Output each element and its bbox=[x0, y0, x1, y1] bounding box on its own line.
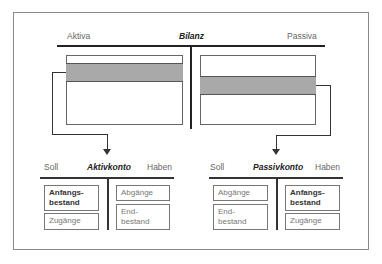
cell-line: bestand bbox=[49, 198, 94, 208]
aktiva-connector-horizontal bbox=[52, 134, 108, 135]
aktivkonto-endbestand: End- bestand bbox=[116, 204, 170, 230]
passivkonto-abgaenge: Abgänge bbox=[213, 185, 268, 201]
passivkonto-haben-label: Haben bbox=[315, 162, 340, 172]
bilanz-title: Bilanz bbox=[179, 31, 204, 41]
passiva-highlight-band bbox=[200, 76, 316, 95]
aktiva-highlight-band bbox=[66, 63, 183, 82]
passiva-connector-vertical bbox=[330, 85, 331, 136]
passiva-connector-drop bbox=[276, 135, 277, 149]
cell-line: Zugänge bbox=[49, 216, 94, 226]
cell-line: End- bbox=[218, 207, 263, 217]
cell-line: bestand bbox=[290, 198, 335, 208]
aktiva-connector-stub bbox=[52, 72, 66, 73]
aktiva-connector-drop bbox=[107, 134, 108, 149]
passivkonto-zugaenge: Zugänge bbox=[285, 213, 340, 230]
aktivkonto-soll-label: Soll bbox=[44, 162, 58, 172]
passivkonto-title: Passivkonto bbox=[253, 162, 303, 172]
aktivkonto-vertical-line bbox=[107, 177, 109, 230]
cell-line: End- bbox=[121, 207, 165, 217]
passiva-connector-stub bbox=[316, 85, 331, 86]
aktivkonto-zugaenge: Zugänge bbox=[44, 213, 99, 230]
passiva-label: Passiva bbox=[287, 31, 317, 41]
aktiva-connector-vertical bbox=[52, 72, 53, 135]
aktivkonto-abgaenge: Abgänge bbox=[116, 185, 170, 201]
arrow-down-icon bbox=[272, 149, 280, 155]
aktivkonto-title: Aktivkonto bbox=[87, 162, 131, 172]
cell-line: Abgänge bbox=[218, 188, 263, 198]
passivkonto-soll-label: Soll bbox=[210, 162, 224, 172]
passivkonto-anfangsbestand: Anfangs- bestand bbox=[285, 185, 340, 211]
passiva-connector-horizontal bbox=[276, 135, 331, 136]
cell-line: Abgänge bbox=[121, 188, 165, 198]
aktivkonto-haben-label: Haben bbox=[147, 162, 172, 172]
cell-line: Zugänge bbox=[290, 216, 335, 226]
cell-line: bestand bbox=[121, 217, 165, 227]
cell-line: bestand bbox=[218, 217, 263, 227]
cell-line: Anfangs- bbox=[49, 188, 94, 198]
passivkonto-vertical-line bbox=[276, 177, 278, 230]
cell-line: Anfangs- bbox=[290, 188, 335, 198]
arrow-down-icon bbox=[103, 149, 111, 155]
aktiva-label: Aktiva bbox=[67, 31, 90, 41]
bilanz-vertical-line bbox=[190, 45, 192, 129]
aktivkonto-anfangsbestand: Anfangs- bestand bbox=[44, 185, 99, 211]
passivkonto-endbestand: End- bestand bbox=[213, 204, 268, 230]
